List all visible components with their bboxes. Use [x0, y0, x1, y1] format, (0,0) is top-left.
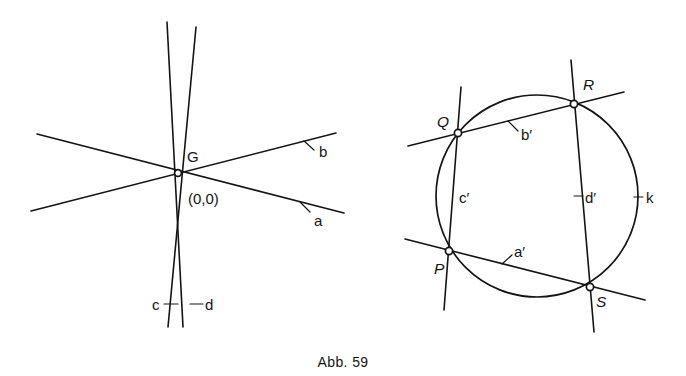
origin-coordinates-label: (0,0): [188, 190, 219, 207]
figure-caption: Abb. 59: [317, 354, 368, 370]
point-p-marker: [445, 247, 452, 254]
point-p-label: P: [434, 260, 445, 277]
figure-svg: b a c d G (0,0) k: [0, 0, 686, 376]
point-s-marker: [586, 283, 593, 290]
point-s-label: S: [596, 293, 607, 310]
line-a-prime-label: a′: [514, 243, 525, 260]
line-c-prime-label: c′: [459, 189, 470, 206]
line-b-prime-label: b′: [521, 126, 532, 143]
point-g-label: G: [187, 148, 199, 165]
line-d: [168, 27, 196, 327]
line-b-leader: [304, 141, 314, 150]
left-panel: b a c d G (0,0): [31, 22, 344, 327]
line-d-label: d: [205, 296, 213, 313]
point-r-marker: [570, 100, 577, 107]
line-d-prime-label: d′: [585, 189, 596, 206]
line-c-label: c: [152, 296, 160, 313]
line-b-label: b: [319, 143, 327, 160]
line-a-label: a: [314, 212, 323, 229]
point-q-label: Q: [437, 113, 449, 130]
line-b-prime-leader: [508, 121, 518, 131]
circle-k-label: k: [646, 189, 654, 206]
line-a-prime-leader: [502, 255, 512, 264]
point-r-label: R: [583, 76, 594, 93]
figure-container: b a c d G (0,0) k: [0, 0, 686, 376]
point-q-marker: [454, 129, 461, 136]
point-g-marker: [175, 170, 182, 177]
right-panel: k b′ a′ c′ d′ Q R P S: [405, 60, 654, 332]
